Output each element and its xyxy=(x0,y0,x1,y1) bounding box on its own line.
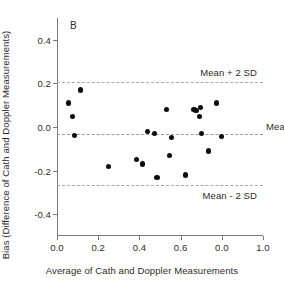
x-tick-label: 0.0 xyxy=(50,242,64,253)
lower-limit-of-agreement-line xyxy=(57,185,263,186)
data-point xyxy=(167,153,172,158)
data-point xyxy=(183,172,188,177)
y-tick-mark xyxy=(53,214,57,215)
data-point xyxy=(164,107,169,112)
data-point xyxy=(169,135,174,140)
x-tick-mark xyxy=(263,236,264,240)
data-point xyxy=(199,131,204,136)
data-point xyxy=(66,100,71,105)
data-point xyxy=(78,87,83,92)
data-point xyxy=(134,157,139,162)
y-tick-mark xyxy=(53,127,57,128)
x-tick-mark xyxy=(98,236,99,240)
x-tick-label: 0.4 xyxy=(133,242,147,253)
plot-area: 0.40.20.0-0.2-0.4 0.00.20.40.60.01.0 Mea… xyxy=(57,18,263,236)
y-tick-label: 0.0 xyxy=(37,122,51,133)
x-axis-line xyxy=(57,235,263,236)
y-tick-label: 0.2 xyxy=(37,78,51,89)
x-tick-mark xyxy=(181,236,182,240)
mean-bias-label: Mean xyxy=(266,121,284,132)
upper-limit-of-agreement-label: Mean + 2 SD xyxy=(200,67,257,78)
x-tick-mark xyxy=(139,236,140,240)
x-tick-label: 1.0 xyxy=(256,242,270,253)
lower-limit-of-agreement-label: Mean - 2 SD xyxy=(203,190,257,201)
x-axis-title: Average of Cath and Doppler Measurements xyxy=(0,265,284,276)
x-tick-label: 0.2 xyxy=(91,242,105,253)
y-axis-line xyxy=(57,18,58,236)
data-point xyxy=(198,105,203,110)
data-point xyxy=(70,114,75,119)
y-tick-label: -0.4 xyxy=(34,209,51,220)
data-point xyxy=(140,161,145,166)
y-tick-label: 0.4 xyxy=(37,34,51,45)
x-tick-label: 0.0 xyxy=(215,242,229,253)
mean-bias-line xyxy=(57,134,263,135)
data-point xyxy=(206,148,211,153)
x-tick-mark xyxy=(222,236,223,240)
data-point xyxy=(154,175,159,180)
x-tick-label: 0.6 xyxy=(174,242,188,253)
upper-limit-of-agreement-line xyxy=(57,82,263,83)
y-tick-label: -0.2 xyxy=(34,165,51,176)
bland-altman-chart: B 0.40.20.0-0.2-0.4 0.00.20.40.60.01.0 M… xyxy=(0,0,284,290)
y-axis-title: Bias (Difference of Cath and Doppler Mea… xyxy=(0,0,14,290)
data-point xyxy=(72,133,77,138)
y-tick-mark xyxy=(53,171,57,172)
x-tick-mark xyxy=(57,236,58,240)
data-point xyxy=(219,134,224,139)
data-point xyxy=(152,131,157,136)
y-tick-mark xyxy=(53,83,57,84)
y-tick-mark xyxy=(53,40,57,41)
data-point xyxy=(106,164,111,169)
data-point xyxy=(214,100,219,105)
data-point xyxy=(197,114,202,119)
